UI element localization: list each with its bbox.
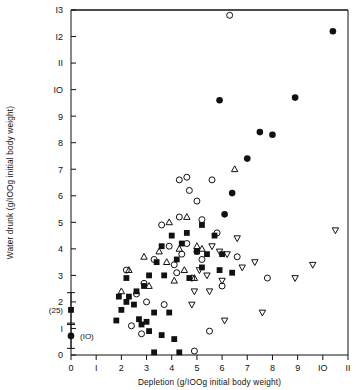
data-point-open-circle [199,217,205,223]
y-tick-label: I2 [55,32,63,42]
data-point-filled-square [113,318,119,324]
data-point-open-circle [207,328,213,334]
x-tick-label: 6 [220,363,225,373]
data-point-filled-circle [257,129,264,136]
data-point-open-circle [234,254,240,260]
inset-label: (IO) [80,332,94,341]
data-point-filled-square [199,222,205,228]
data-point-filled-square [124,299,130,305]
data-point-filled-square [186,275,192,281]
data-point-filled-square [118,307,124,313]
data-point-open-triangle-up [163,259,169,265]
x-tick-label: 3 [144,363,149,373]
data-point-open-circle [161,302,167,308]
data-point-open-circle [176,177,182,183]
y-tick-label: I3 [55,5,63,15]
data-point-filled-square [136,316,142,322]
data-point-open-circle [191,348,197,354]
data-point-filled-circle [330,28,337,35]
data-point-open-triangle-up [231,166,237,172]
data-point-open-triangle-down [252,260,258,266]
x-tick-label: IO [318,363,328,373]
data-point-open-triangle-down [189,302,195,308]
data-point-filled-square [154,259,160,265]
data-point-filled-square [171,336,177,342]
y-tick-label: 5 [58,218,63,228]
data-point-open-triangle-down [234,236,240,242]
data-point-filled-square [184,230,190,236]
data-point-open-circle [209,177,215,183]
y-tick-label: 0 [58,350,63,360]
data-point-open-circle [264,275,270,281]
y-tick-label: 3 [58,271,63,281]
data-point-open-triangle-down [206,289,212,295]
data-point-open-triangle-down [209,244,215,250]
data-point-filled-circle [269,131,276,138]
y-tick-label: 4 [58,244,63,254]
data-point-open-triangle-up [184,214,190,220]
data-point-filled-square [144,319,150,325]
data-point-open-triangle-down [219,278,225,284]
data-point-open-triangle-up [171,277,177,283]
y-tick-label: 9 [58,112,63,122]
data-point-filled-square [166,310,172,316]
data-point-open-circle [139,331,145,337]
y-tick-label: 8 [58,138,63,148]
data-point-filled-square [126,294,132,300]
data-point-filled-square [199,265,205,271]
data-point-filled-square [159,243,165,249]
data-point-open-triangle-down [239,265,245,271]
data-point-open-circle [159,222,165,228]
y-tick-label: 7 [58,165,63,175]
data-point-open-triangle-up [141,253,147,259]
x-tick-label: I [95,363,98,373]
data-point-filled-circle [216,97,223,104]
data-point-filled-square [194,249,200,255]
data-point-open-circle [128,323,134,329]
data-point-filled-square [124,275,130,281]
x-axis-title: Depletion (g/IOOg initial body weight) [138,378,281,387]
data-point-filled-square [169,233,175,239]
data-point-filled-square [159,332,165,338]
data-point-filled-square [116,294,122,300]
data-point-open-triangle-down [204,273,210,279]
data-point-open-circle [184,174,190,180]
data-point-filled-square [204,251,210,257]
x-tick-label: 8 [270,363,275,373]
data-point-open-circle [199,256,205,262]
data-point-open-triangle-down [259,310,265,316]
data-point-filled-square [146,328,152,334]
data-point-open-circle [176,214,182,220]
data-point-filled-square [151,310,157,316]
x-tick-label: II [345,363,350,373]
x-tick-label: 5 [194,363,199,373]
data-point-open-circle [227,12,233,18]
data-point-open-circle [144,299,150,305]
x-tick-label: 9 [295,363,300,373]
data-point-filled-circle [292,94,299,101]
data-point-filled-square [131,302,137,308]
x-tick-label: 0 [68,363,73,373]
data-point-open-triangle-down [310,262,316,268]
data-point-open-circle [194,198,200,204]
data-point-open-triangle-up [166,219,172,225]
x-tick-label: 4 [169,363,174,373]
data-point-open-circle [184,241,190,247]
data-point-filled-square [139,322,145,328]
data-point-open-triangle-down [191,289,197,295]
data-point-filled-square [151,349,157,355]
plot-canvas: 0I23456789IOII0I23456789IOIII2I3Depletio… [0,0,356,390]
data-point-open-circle [174,270,180,276]
data-point-filled-circle [229,190,236,197]
y-tick-label: II [58,58,63,68]
data-point-filled-square [174,257,180,263]
data-point-open-circle [171,262,177,268]
y-tick-label: 6 [58,191,63,201]
data-point-filled-square [141,283,147,289]
scatter-plot-figure: 0I23456789IOII0I23456789IOIII2I3Depletio… [0,0,356,390]
data-point-filled-square [146,272,152,278]
data-point-filled-square [134,288,140,294]
data-point-filled-square [219,251,225,257]
data-point-filled-square [217,267,223,273]
y-tick-label: IO [53,85,63,95]
